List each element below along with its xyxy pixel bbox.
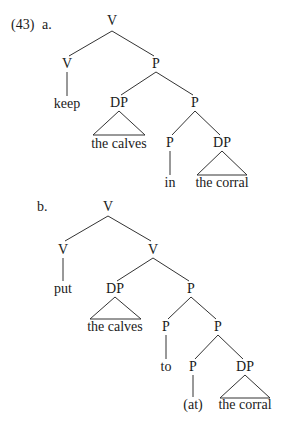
node-label: DP xyxy=(236,359,254,374)
example-number: (43) xyxy=(11,17,35,33)
branch xyxy=(191,297,216,319)
node-label: P xyxy=(191,95,199,110)
branch xyxy=(65,216,108,241)
branch xyxy=(195,335,218,359)
node-label: DP xyxy=(106,281,124,296)
node-label: P xyxy=(187,281,195,296)
node-label: V xyxy=(103,199,113,214)
node-label: DP xyxy=(213,135,231,150)
node-label: P xyxy=(152,56,160,71)
branch xyxy=(168,297,191,319)
syntax-tree-diagram: (43) a. V V keep P DP the calves P P in … xyxy=(0,0,283,422)
branch xyxy=(153,258,189,281)
node-label: V xyxy=(58,242,68,257)
branch xyxy=(218,335,243,359)
node-label: P xyxy=(189,359,197,374)
dp-triangle xyxy=(90,297,141,319)
node-label: V xyxy=(107,13,117,28)
tree-b-label: b. xyxy=(37,199,48,214)
terminal: the calves xyxy=(87,319,143,334)
terminal: the corral xyxy=(195,175,248,190)
terminal: in xyxy=(165,175,176,190)
branch xyxy=(112,31,154,56)
node-label: P xyxy=(214,319,222,334)
node-label: P xyxy=(162,319,170,334)
branch xyxy=(69,31,112,56)
branch xyxy=(195,111,220,135)
tree-a: a. V V keep P DP the calves P P in DP th… xyxy=(42,13,249,190)
branch xyxy=(117,258,153,281)
tree-a-branches xyxy=(67,31,247,175)
node-label: V xyxy=(148,242,158,257)
terminal: to xyxy=(161,359,172,374)
dp-triangle xyxy=(220,375,270,398)
branch xyxy=(156,72,193,95)
branch xyxy=(121,72,156,95)
branch xyxy=(108,216,151,241)
node-label: P xyxy=(166,135,174,150)
terminal: put xyxy=(54,281,72,296)
terminal: keep xyxy=(54,96,80,111)
tree-a-label: a. xyxy=(42,17,52,32)
dp-triangle xyxy=(93,111,145,135)
branch xyxy=(172,111,195,135)
terminal: (at) xyxy=(183,397,203,413)
tree-b: b. V V put V DP the calves P P to P P ( xyxy=(37,199,272,413)
terminal: the calves xyxy=(91,136,147,151)
dp-triangle xyxy=(197,151,247,175)
terminal: the corral xyxy=(218,397,271,412)
node-label: V xyxy=(62,56,72,71)
node-label: DP xyxy=(110,95,128,110)
